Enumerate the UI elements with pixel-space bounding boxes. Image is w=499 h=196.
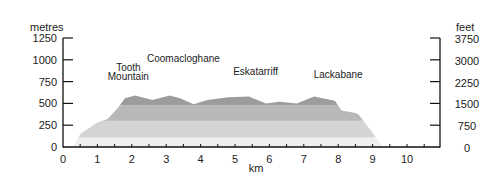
x-tick-label: 5 <box>232 153 238 165</box>
elevation-profile-chart: 0250500750100012500750150022503000375001… <box>0 0 499 196</box>
x-tick-label: 7 <box>301 153 307 165</box>
elevation-band <box>63 105 440 121</box>
y-tick-label-right: 0 <box>464 142 470 154</box>
y-tick-label-left: 500 <box>39 97 57 109</box>
y-tick-label-left: 0 <box>51 141 57 153</box>
x-tick-label: 8 <box>335 153 341 165</box>
x-tick-label: 4 <box>198 153 204 165</box>
elevation-band <box>63 137 440 147</box>
chart-svg: 0250500750100012500750150022503000375001… <box>0 0 499 196</box>
x-axis-label: km <box>249 162 264 174</box>
y-tick-label-right: 3000 <box>455 55 479 67</box>
axis-labels: metres feet km <box>30 21 474 174</box>
x-tick-label: 1 <box>94 153 100 165</box>
peak-annotations: ToothMountainCoomacloghaneEskatarriffLac… <box>108 53 363 82</box>
y-tick-label-right: 750 <box>458 120 476 132</box>
y-tick-label-left: 250 <box>39 119 57 131</box>
x-tick-label: 10 <box>401 153 413 165</box>
y-tick-label-left: 750 <box>39 76 57 88</box>
peak-label: Mountain <box>108 71 149 82</box>
y-tick-label-right: 1500 <box>455 98 479 110</box>
y-axis-label-right: feet <box>456 21 474 33</box>
peak-label: Eskatarriff <box>233 66 278 77</box>
x-tick-label: 3 <box>163 153 169 165</box>
x-tick-label: 2 <box>129 153 135 165</box>
elevation-band <box>63 121 440 138</box>
elevation-band <box>63 86 440 105</box>
y-tick-label-right: 3750 <box>455 33 479 45</box>
x-tick-label: 6 <box>266 153 272 165</box>
y-tick-label-right: 2250 <box>455 77 479 89</box>
y-tick-label-left: 1000 <box>33 54 57 66</box>
elevation-bands <box>63 86 440 147</box>
peak-label: Lackabane <box>314 69 363 80</box>
x-tick-label: 0 <box>60 153 66 165</box>
y-axis-label-left: metres <box>30 21 64 33</box>
x-tick-label: 9 <box>370 153 376 165</box>
peak-label: Coomacloghane <box>147 53 220 64</box>
y-tick-label-left: 1250 <box>33 32 57 44</box>
